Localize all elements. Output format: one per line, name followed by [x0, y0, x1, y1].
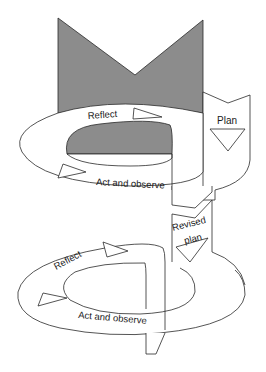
reflect-label-2: Reflect: [52, 248, 84, 272]
act-arrow-2: [38, 293, 67, 306]
reflect-arrow-2: [103, 242, 128, 257]
act-observe-label-2: Act and observe: [78, 309, 147, 326]
plan-label: Plan: [217, 115, 237, 126]
act-observe-label-1: Act and observe: [96, 176, 165, 191]
reflect-label-1: Reflect: [87, 108, 118, 121]
action-research-spiral-diagram: Reflect Act and observe Plan Revised pla…: [0, 0, 266, 372]
bottom-tail: [146, 333, 165, 354]
connector-band: [172, 186, 212, 208]
top-crown-shape: [58, 18, 203, 113]
